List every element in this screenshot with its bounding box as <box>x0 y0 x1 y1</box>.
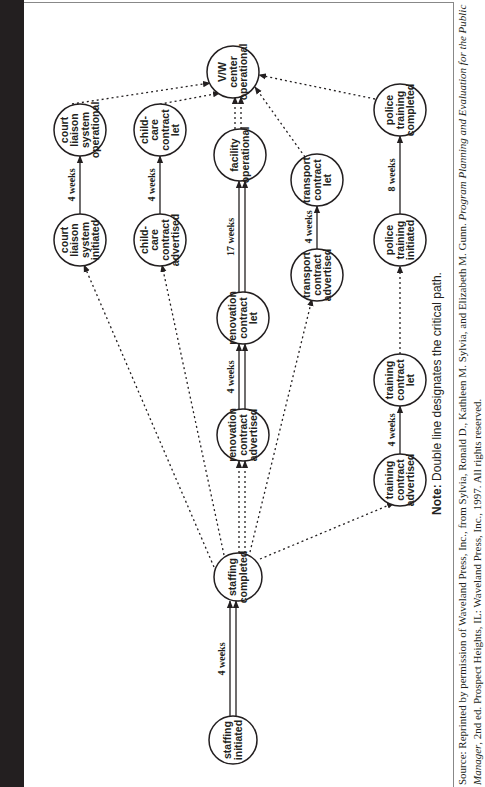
duration-facility: 17 weeks <box>225 218 236 256</box>
node-label-police-initiated: policetraininginitiated <box>383 220 416 260</box>
node-label-training-advertised: trainingcontractadvertised <box>383 454 416 507</box>
duration-transport: 4 weeks <box>303 210 314 243</box>
node-label-renovation-advertised: renovationcontractadvertised <box>226 408 259 462</box>
rotated-figure-page: Figure 16.2 • PERT Chart for Opening a V… <box>0 0 485 787</box>
edge-staffing-critical <box>230 601 236 716</box>
duration-police: 8 weeks <box>386 158 397 191</box>
note-label: Note: <box>430 484 444 515</box>
duration-staffing: 4 weeks <box>216 642 227 675</box>
source-citation: Source: Reprinted by permission of Wavel… <box>455 1 485 785</box>
edge-renovation-critical <box>239 344 245 409</box>
duration-renovation: 4 weeks <box>225 360 236 393</box>
node-label-staffing-completed: staffingcompleted <box>226 551 249 604</box>
duration-court: 4 weeks <box>66 168 77 201</box>
node-label-transport-advertised: transportcontractadvertised <box>300 249 333 302</box>
duration-childcare: 4 weeks <box>146 168 157 201</box>
node-label-staffing-initiated: staffinginitiated <box>221 720 244 760</box>
edge-staffing-renovation-dummy <box>239 461 245 553</box>
pert-diagram: 4 weeks 4 weeks 17 weeks 4 weeks 4 weeks… <box>0 0 430 787</box>
critical-path-note: Note: Double line designates the critica… <box>430 0 444 787</box>
edge-facility-vw-dummy <box>235 97 241 129</box>
source-suffix: , 2nd ed. Prospect Heights, IL: Waveland… <box>471 399 483 745</box>
edge-facility-critical <box>239 181 245 292</box>
note-text: Double line designates the critical path… <box>430 272 444 484</box>
duration-training: 4 weeks <box>386 413 397 446</box>
source-prefix: Source: Reprinted by permission of Wavel… <box>456 221 468 785</box>
